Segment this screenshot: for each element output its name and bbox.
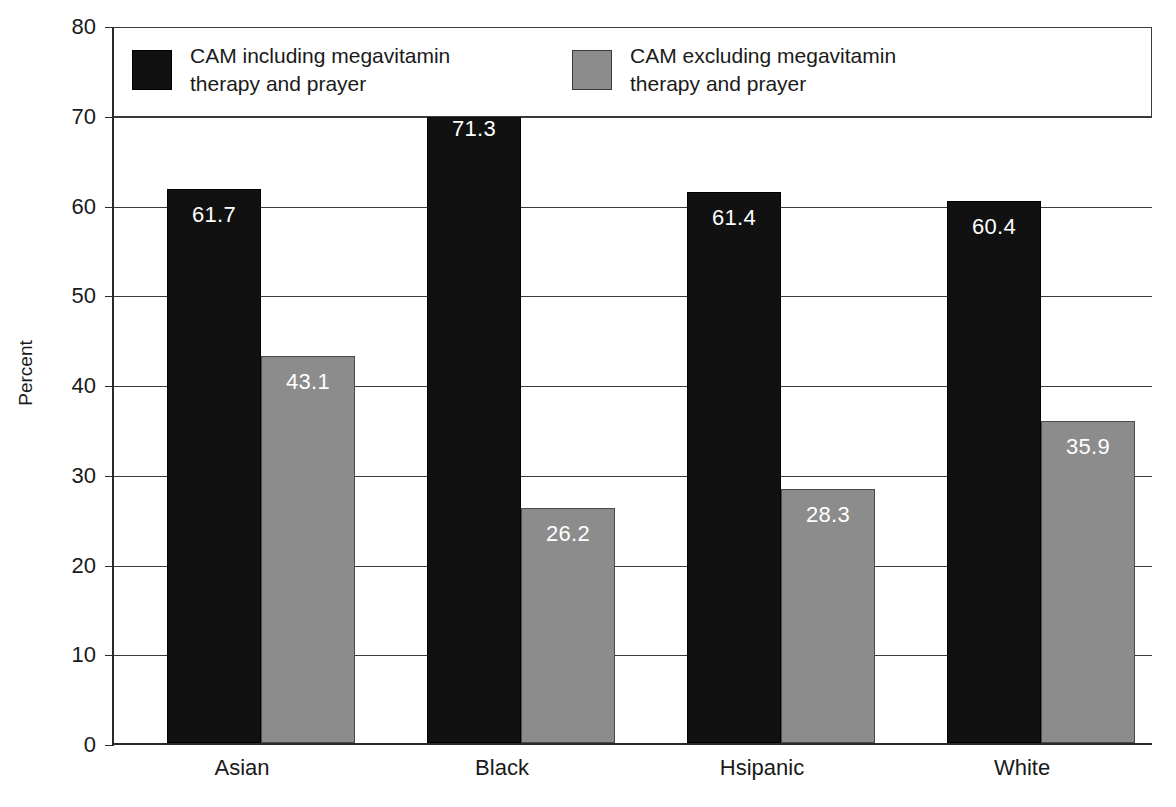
plot-area: 61.743.171.326.261.428.360.435.9 CAM inc… [112,27,1152,745]
y-axis-tick-40: 40 [50,375,96,397]
y-axis-tick-20: 20 [50,555,96,577]
x-axis-tick-hsipanic: Hsipanic [632,757,892,779]
legend-entry-1: CAM excluding megavitamin therapy and pr… [572,42,896,97]
y-axis-tick-10: 10 [50,644,96,666]
legend-label-0: CAM including megavitamin therapy and pr… [190,42,450,97]
bar-value-label: 60.4 [948,216,1040,238]
x-axis-tick-white: White [892,757,1152,779]
x-axis-tick-asian: Asian [112,757,372,779]
bar-value-label: 35.9 [1042,436,1134,458]
legend-swatch-1 [572,50,612,90]
bar-asian-series-0: 61.7 [167,189,261,743]
bar-hsipanic-series-0: 61.4 [687,192,781,743]
bar-value-label: 61.4 [688,207,780,229]
y-axis-tick-50: 50 [50,285,96,307]
bars-group: 61.743.171.326.261.428.360.435.9 [114,27,1152,743]
bar-value-label: 28.3 [782,504,874,526]
y-axis-tick-60: 60 [50,196,96,218]
legend-label-1: CAM excluding megavitamin therapy and pr… [630,42,896,97]
x-axis-tick-black: Black [372,757,632,779]
y-axis-tick-70: 70 [50,106,96,128]
x-axis-tick-labels: AsianBlackHsipanicWhite [112,757,1152,797]
y-tickmark-20 [105,566,114,567]
bar-black-series-0: 71.3 [427,103,521,743]
y-tickmark-10 [105,655,114,656]
y-tickmark-60 [105,207,114,208]
y-tickmark-0 [105,745,114,746]
bar-chart: Percent 80706050403020100 61.743.171.326… [0,0,1176,807]
chart-legend: CAM including megavitamin therapy and pr… [114,27,1152,117]
bar-value-label: 71.3 [428,118,520,140]
y-tickmark-50 [105,296,114,297]
y-axis-tick-80: 80 [50,16,96,38]
bar-white-series-0: 60.4 [947,201,1041,743]
bar-hsipanic-series-1: 28.3 [781,489,875,743]
legend-entry-0: CAM including megavitamin therapy and pr… [132,42,450,97]
bar-asian-series-1: 43.1 [261,356,355,743]
legend-swatch-0 [132,50,172,90]
y-tickmark-70 [105,117,114,118]
y-tickmark-30 [105,476,114,477]
bar-black-series-1: 26.2 [521,508,615,743]
y-axis-tick-labels: 80706050403020100 [0,0,96,807]
bar-value-label: 61.7 [168,204,260,226]
bar-value-label: 26.2 [522,523,614,545]
y-axis-tick-30: 30 [50,465,96,487]
y-tickmark-40 [105,386,114,387]
bar-value-label: 43.1 [262,371,354,393]
y-tickmark-80 [105,27,114,28]
bar-white-series-1: 35.9 [1041,421,1135,743]
y-axis-tick-0: 0 [50,734,96,756]
